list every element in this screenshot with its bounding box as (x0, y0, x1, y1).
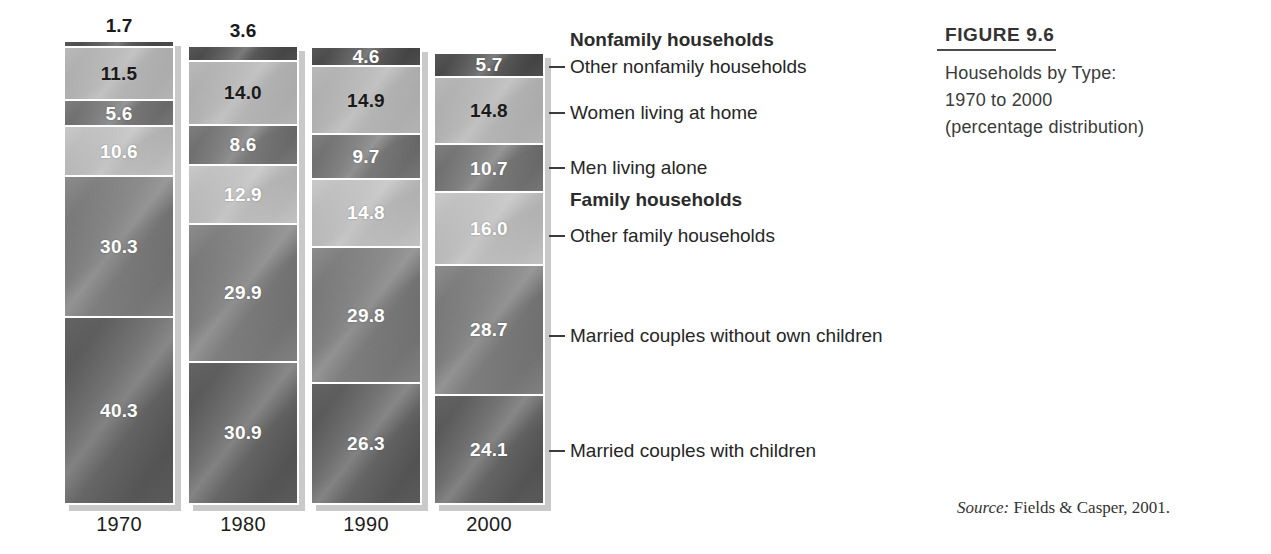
bar-segment: 14.8 (433, 78, 545, 145)
bar-segment: 11.5 (63, 48, 175, 101)
legend-item-label: Married couples without own children (570, 326, 883, 345)
segment-value-label: 14.9 (347, 91, 385, 110)
figure-description-line: 1970 to 2000 (945, 87, 1245, 114)
segment-value-label: 5.7 (475, 55, 502, 74)
segment-value-label: 16.0 (470, 219, 508, 238)
chart-legend: Nonfamily householdsFamily householdsOth… (549, 0, 969, 554)
leader-line-icon (549, 335, 565, 337)
segment-value-label: 40.3 (100, 401, 138, 420)
bar-segment: 29.8 (310, 248, 422, 385)
bar-segment: 24.1 (433, 396, 545, 505)
segment-value-label: 4.6 (352, 47, 379, 66)
bar-segment: 29.9 (187, 225, 299, 363)
bar-segment: 14.0 (187, 62, 299, 126)
leader-line-icon (549, 450, 565, 452)
leader-line-icon (549, 112, 565, 114)
bar-segment: 14.8 (310, 180, 422, 248)
bar-stack: 5.714.810.716.028.724.1 (433, 52, 545, 505)
bar-column-1990: 4.614.99.714.829.826.3 (310, 0, 422, 554)
segment-value-label: 29.8 (347, 306, 385, 325)
figure-number: FIGURE 9.6 (937, 24, 1056, 51)
segment-value-label: 10.7 (470, 159, 508, 178)
bar-segment: 8.6 (187, 126, 299, 166)
stacked-bar-chart: 1.7197011.55.610.630.340.33.6198014.08.6… (0, 0, 545, 554)
leader-line-icon (549, 66, 565, 68)
legend-item-label: Women living at home (570, 103, 758, 122)
segment-value-label: 30.9 (224, 423, 262, 442)
segment-value-label: 14.8 (347, 203, 385, 222)
bar-segment: 30.3 (63, 177, 175, 318)
figure-caption-block: FIGURE 9.6 Households by Type:1970 to 20… (945, 24, 1245, 141)
leader-line-icon (549, 235, 565, 237)
bar-segment: 9.7 (310, 135, 422, 179)
segment-value-label: 14.0 (224, 83, 262, 102)
bar-segment: 30.9 (187, 363, 299, 505)
legend-item: Women living at home (549, 103, 758, 122)
bar-stack: 11.55.610.630.340.3 (63, 40, 175, 505)
legend-heading: Family households (570, 190, 742, 209)
bar-column-1980: 14.08.612.929.930.9 (187, 0, 299, 554)
source-note: Source: Fields & Casper, 2001. (957, 498, 1170, 518)
legend-item: Married couples with children (549, 441, 816, 460)
leader-line-icon (549, 167, 565, 169)
bar-segment: 14.9 (310, 67, 422, 135)
bar-segment: 40.3 (63, 318, 175, 505)
segment-value-label: 28.7 (470, 320, 508, 339)
legend-heading: Nonfamily households (570, 30, 774, 49)
legend-item-label: Other family households (570, 226, 775, 245)
segment-value-label: 5.6 (105, 104, 132, 123)
figure-description-line: Households by Type: (945, 60, 1245, 87)
segment-value-label: 14.8 (470, 101, 508, 120)
bar-segment: 5.6 (63, 101, 175, 127)
segment-value-label: 24.1 (470, 440, 508, 459)
bar-stack: 4.614.99.714.829.826.3 (310, 46, 422, 505)
legend-item: Other family households (549, 226, 775, 245)
source-text: Fields & Casper, 2001. (1009, 498, 1170, 517)
bar-segment: 16.0 (433, 193, 545, 265)
bar-segment: 4.6 (310, 46, 422, 67)
bar-column-1970: 11.55.610.630.340.3 (63, 0, 175, 554)
bar-segment: 10.7 (433, 145, 545, 193)
legend-item-label: Other nonfamily households (570, 57, 807, 76)
figure-description-line: (percentage distribution) (945, 114, 1245, 141)
legend-item: Married couples without own children (549, 326, 883, 345)
bar-segment (63, 40, 175, 48)
bar-segment: 28.7 (433, 266, 545, 396)
segment-value-label: 11.5 (101, 64, 138, 83)
bar-segment: 12.9 (187, 166, 299, 225)
legend-item-label: Men living alone (570, 158, 707, 177)
figure-description: Households by Type:1970 to 2000(percenta… (945, 60, 1245, 141)
source-label: Source: (957, 498, 1009, 517)
segment-value-label: 10.6 (100, 142, 138, 161)
segment-value-label: 8.6 (229, 135, 256, 154)
segment-value-label: 26.3 (347, 434, 385, 453)
bar-segment: 5.7 (433, 52, 545, 78)
segment-value-label: 29.9 (224, 283, 262, 302)
segment-value-label: 30.3 (100, 237, 138, 256)
legend-item: Men living alone (549, 158, 707, 177)
legend-item: Other nonfamily households (549, 57, 807, 76)
bar-segment (187, 45, 299, 62)
segment-value-label: 12.9 (224, 185, 262, 204)
bar-column-2000: 5.714.810.716.028.724.1 (433, 0, 545, 554)
legend-item-label: Married couples with children (570, 441, 816, 460)
segment-value-label: 9.7 (352, 147, 379, 166)
bar-segment: 10.6 (63, 127, 175, 176)
bar-segment: 26.3 (310, 384, 422, 505)
bar-stack: 14.08.612.929.930.9 (187, 45, 299, 505)
